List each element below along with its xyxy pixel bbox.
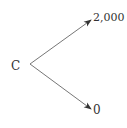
- root-node-label: C: [11, 60, 20, 72]
- lower-branch-label: 0: [93, 104, 101, 116]
- upper-branch-arrow: [30, 20, 91, 64]
- upper-branch-label: 2,000: [93, 12, 125, 23]
- lower-branch-arrow: [30, 64, 91, 109]
